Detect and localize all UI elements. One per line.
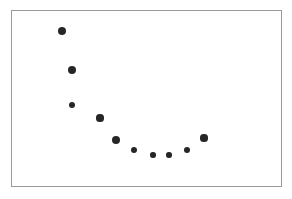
data-point[interactable] <box>200 134 207 141</box>
data-point[interactable] <box>112 136 120 144</box>
data-point[interactable] <box>166 152 171 157</box>
data-point[interactable] <box>184 147 190 153</box>
scatter-plot-figure <box>0 0 292 199</box>
data-point[interactable] <box>96 114 103 121</box>
plot-frame <box>11 10 282 187</box>
data-point[interactable] <box>150 152 155 157</box>
